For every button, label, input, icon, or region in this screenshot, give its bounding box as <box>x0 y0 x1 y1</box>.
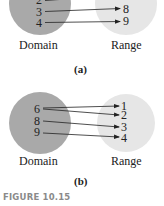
domain-value: 9 <box>34 125 40 139</box>
panel-b: 6 8 9 1 2 3 4 Domain Range (b) <box>9 92 155 188</box>
range-label: Range <box>111 38 142 52</box>
range-value: 9 <box>123 14 129 28</box>
domain-value: 4 <box>36 16 42 30</box>
panel-a: 2 3 4 8 9 Domain Range (a) <box>9 0 157 76</box>
range-label: Range <box>111 154 142 168</box>
domain-circle-b <box>9 92 71 154</box>
panel-sublabel: (a) <box>74 63 87 76</box>
range-value: 4 <box>121 131 127 145</box>
domain-label: Domain <box>19 38 58 52</box>
domain-label: Domain <box>19 154 58 168</box>
mapping-diagram: 2 3 4 8 9 Domain Range (a) 6 8 9 1 2 3 4… <box>0 0 164 206</box>
figure-caption: FIGURE 10.15 <box>3 192 70 202</box>
panel-sublabel: (b) <box>74 175 88 188</box>
